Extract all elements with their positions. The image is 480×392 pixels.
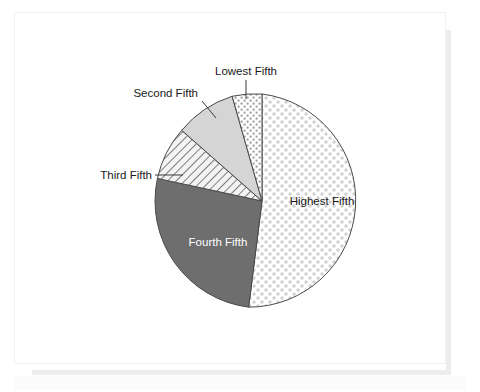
figure-root: Lowest Fifth Second Fifth Third Fifth Fo… [0, 0, 480, 392]
label-lowest-fifth: Lowest Fifth [215, 65, 277, 77]
label-third-fifth: Third Fifth [100, 169, 152, 181]
pie-chart: Lowest Fifth Second Fifth Third Fifth Fo… [0, 0, 480, 392]
label-highest-fifth: Highest Fifth [290, 195, 355, 207]
label-fourth-fifth: Fourth Fifth [189, 236, 248, 248]
label-second-fifth: Second Fifth [133, 87, 198, 99]
